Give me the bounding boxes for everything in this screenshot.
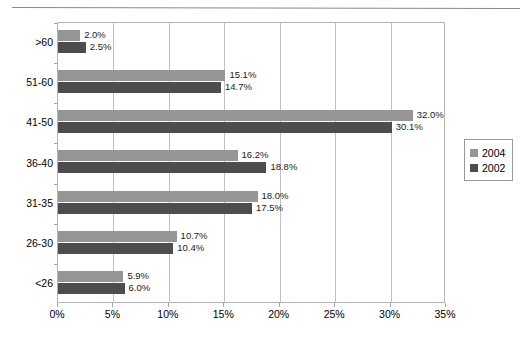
- x-axis-tick-mark: [445, 303, 446, 307]
- y-axis-category-label-41-50: 41-50: [1, 116, 53, 128]
- legend-swatch-icon: [470, 164, 478, 172]
- bar-value-label: 5.9%: [127, 270, 149, 281]
- x-axis-tick-label: 5%: [105, 308, 120, 320]
- bar-value-label: 2.5%: [90, 41, 112, 52]
- x-axis-tick-mark: [223, 303, 224, 307]
- bar-2002-26-30: [58, 243, 173, 254]
- x-axis-tick-mark: [57, 303, 58, 307]
- y-axis-tick-mark: [54, 224, 58, 225]
- legend-label: 2002: [482, 162, 505, 174]
- x-axis-tick-mark: [279, 303, 280, 307]
- x-axis-tick-label: 0%: [49, 308, 64, 320]
- bar-2002-<26: [58, 283, 125, 294]
- bar-chart: >6051-6041-5036-4031-3526-30<26 2.0%2.5%…: [0, 0, 529, 350]
- y-axis-category-label->60: >60: [1, 36, 53, 48]
- x-axis-tick-mark: [334, 303, 335, 307]
- bar-2004->60: [58, 30, 80, 41]
- bar-2004-51-60: [58, 70, 225, 81]
- legend-item-2004: 2004: [470, 145, 505, 160]
- x-axis-tick-label: 35%: [434, 308, 455, 320]
- bar-2004-41-50: [58, 110, 413, 121]
- y-axis-category-label-26-30: 26-30: [1, 237, 53, 249]
- bar-2002-36-40: [58, 162, 266, 173]
- x-axis-tick-label: 20%: [268, 308, 289, 320]
- bar-2002-31-35: [58, 203, 252, 214]
- bar-group: 2.0%2.5%: [58, 23, 444, 63]
- x-axis-tick-mark: [390, 303, 391, 307]
- bar-value-label: 16.2%: [242, 149, 269, 160]
- chart-legend: 20042002: [464, 139, 513, 181]
- bar-value-label: 10.7%: [181, 230, 208, 241]
- y-axis-tick-mark: [54, 103, 58, 104]
- bar-2002-51-60: [58, 82, 221, 93]
- y-axis-tick-mark: [54, 63, 58, 64]
- legend-swatch-icon: [470, 149, 478, 157]
- bar-group: 32.0%30.1%: [58, 103, 444, 143]
- y-axis-tick-mark: [54, 143, 58, 144]
- y-axis-category-label-31-35: 31-35: [1, 197, 53, 209]
- y-axis-tick-mark: [54, 184, 58, 185]
- bar-group: 5.9%6.0%: [58, 264, 444, 304]
- bar-value-label: 30.1%: [396, 121, 423, 132]
- plot-area: 2.0%2.5%15.1%14.7%32.0%30.1%16.2%18.8%18…: [57, 22, 445, 303]
- x-axis-tick-label: 25%: [324, 308, 345, 320]
- x-axis-tick-label: 15%: [213, 308, 234, 320]
- bar-group: 15.1%14.7%: [58, 63, 444, 103]
- bar-value-label: 6.0%: [129, 282, 151, 293]
- x-axis-tick-mark: [168, 303, 169, 307]
- bar-value-label: 14.7%: [225, 81, 252, 92]
- bar-value-label: 15.1%: [229, 69, 256, 80]
- y-axis-tick-mark: [54, 23, 58, 24]
- bar-2002-41-50: [58, 122, 392, 133]
- bar-group: 18.0%17.5%: [58, 184, 444, 224]
- bar-2004-<26: [58, 271, 123, 282]
- y-axis-category-label-36-40: 36-40: [1, 157, 53, 169]
- x-axis-tick-labels: 0%5%10%15%20%25%30%35%: [57, 308, 445, 324]
- bar-value-label: 10.4%: [177, 242, 204, 253]
- bar-2004-31-35: [58, 191, 258, 202]
- x-axis-tick-mark: [112, 303, 113, 307]
- y-axis-tick-mark: [54, 264, 58, 265]
- legend-label: 2004: [482, 147, 505, 159]
- bar-value-label: 18.8%: [270, 161, 297, 172]
- x-axis-tick-label: 30%: [379, 308, 400, 320]
- y-axis-category-label-51-60: 51-60: [1, 76, 53, 88]
- bar-value-label: 2.0%: [84, 29, 106, 40]
- bar-2004-36-40: [58, 150, 238, 161]
- bar-2004-26-30: [58, 231, 177, 242]
- y-axis-category-labels: >6051-6041-5036-4031-3526-30<26: [0, 22, 53, 303]
- bar-2002->60: [58, 42, 86, 53]
- legend-item-2002: 2002: [470, 160, 505, 175]
- bar-value-label: 17.5%: [256, 202, 283, 213]
- y-axis-category-label-<26: <26: [1, 277, 53, 289]
- bar-value-label: 18.0%: [262, 190, 289, 201]
- bar-group: 16.2%18.8%: [58, 143, 444, 183]
- bar-value-label: 32.0%: [417, 109, 444, 120]
- bar-group: 10.7%10.4%: [58, 224, 444, 264]
- x-axis-tick-label: 10%: [157, 308, 178, 320]
